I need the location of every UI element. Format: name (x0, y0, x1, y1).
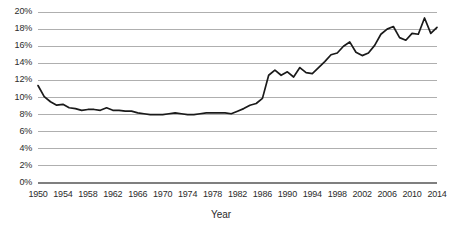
y-tick-9: 18% (2, 24, 32, 33)
gridlines (38, 12, 437, 166)
y-tick-10: 20% (2, 7, 32, 16)
y-tick-5: 10% (2, 93, 32, 102)
data-series-line (38, 18, 437, 115)
y-tick-7: 14% (2, 58, 32, 67)
y-tick-1: 2% (2, 161, 32, 170)
y-tick-6: 12% (2, 75, 32, 84)
y-tick-4: 8% (2, 110, 32, 119)
x-tick-16: 2014 (422, 190, 451, 199)
x-axis-title: Year (0, 209, 442, 220)
y-tick-2: 4% (2, 144, 32, 153)
y-tick-8: 16% (2, 41, 32, 50)
y-tick-0: 0% (2, 178, 32, 187)
y-tick-3: 6% (2, 127, 32, 136)
